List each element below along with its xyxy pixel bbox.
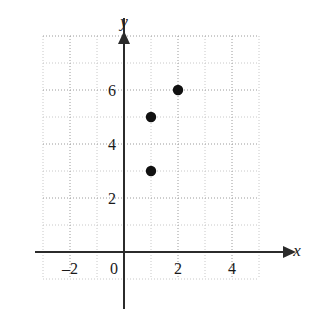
y-tick-label: 6	[108, 82, 116, 99]
coordinate-plane-figure: –2024 246 x y	[0, 0, 319, 320]
scatter-plot-svg: –2024 246 x y	[0, 0, 319, 320]
y-tick-label: 4	[108, 136, 116, 153]
y-axis-label: y	[118, 12, 128, 31]
data-point	[146, 112, 156, 122]
data-point	[146, 166, 156, 176]
x-tick-label: 2	[174, 260, 182, 277]
x-tick-label: 4	[228, 260, 236, 277]
x-axis-label: x	[292, 241, 301, 260]
data-point	[173, 85, 183, 95]
x-tick-label: 0	[110, 260, 118, 277]
y-tick-label: 2	[108, 190, 116, 207]
plot-background	[0, 0, 319, 320]
x-tick-label: –2	[61, 260, 78, 277]
